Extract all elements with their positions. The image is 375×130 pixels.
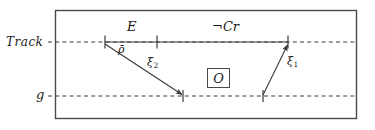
ground-axis-label: g [36, 88, 44, 101]
xi2-subscript: 2 [154, 61, 159, 70]
interval-label-cr-text: Cr [223, 19, 239, 34]
diagram-frame [56, 11, 357, 119]
xi1-subscript: 1 [294, 60, 299, 69]
track-axis-label: Track [6, 36, 43, 48]
diagram-canvas: Track g E ¬Cr ρ̄ ξ2 ξ1 O [0, 0, 375, 130]
xi2-symbol: ξ [147, 56, 153, 69]
xi1-arrow [263, 45, 288, 95]
rho-bar-label: ρ̄ [118, 44, 124, 55]
xi2-label: ξ2 [147, 57, 158, 68]
interval-label-not-cr: ¬Cr [212, 20, 239, 33]
observation-box: O [207, 68, 230, 88]
interval-label-e: E [127, 20, 137, 33]
xi1-symbol: ξ [287, 55, 293, 68]
xi2-arrow [105, 44, 182, 95]
xi1-label: ξ1 [287, 56, 298, 67]
diagram-vector-layer [0, 0, 375, 130]
negation-symbol: ¬ [212, 19, 223, 34]
observation-symbol: O [213, 72, 224, 85]
